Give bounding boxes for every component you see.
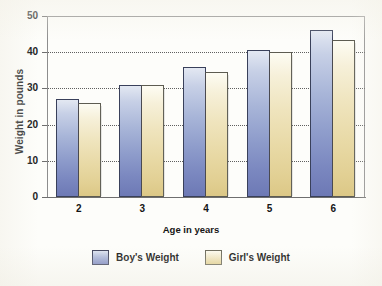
legend-label: Boy's Weight (116, 252, 179, 263)
bar-girl-age-2[interactable] (78, 103, 101, 197)
bar-boy-age-2[interactable] (56, 99, 79, 197)
bar-group-age-4 (183, 67, 229, 197)
x-tick-label-2: 2 (59, 203, 99, 214)
x-axis-title: Age in years (0, 224, 382, 235)
legend-item-boy[interactable]: Boy's Weight (92, 250, 179, 265)
legend-swatch-boy-icon (92, 250, 109, 265)
bar-group-age-6 (310, 30, 356, 197)
chart-legend: Boy's WeightGirl's Weight (0, 250, 382, 265)
bar-group-age-5 (247, 50, 293, 197)
bar-boy-age-3[interactable] (119, 85, 142, 197)
legend-swatch-girl-icon (205, 250, 222, 265)
bars-layer (0, 0, 382, 286)
bar-group-age-3 (119, 85, 165, 197)
bar-boy-age-5[interactable] (247, 50, 270, 197)
x-tick-label-4: 4 (186, 203, 226, 214)
x-tick-label-6: 6 (313, 203, 353, 214)
bar-group-age-2 (56, 99, 102, 197)
x-tick-label-5: 5 (250, 203, 290, 214)
bar-girl-age-5[interactable] (269, 52, 292, 197)
bar-girl-age-4[interactable] (205, 72, 228, 197)
bar-boy-age-6[interactable] (310, 30, 333, 197)
x-tick-label-3: 3 (122, 203, 162, 214)
bar-girl-age-3[interactable] (141, 85, 164, 197)
bar-boy-age-4[interactable] (183, 67, 206, 197)
legend-item-girl[interactable]: Girl's Weight (205, 250, 290, 265)
bar-chart: Weight in pounds 01020304050 23456 Age i… (0, 0, 382, 286)
legend-label: Girl's Weight (229, 252, 290, 263)
bar-girl-age-6[interactable] (332, 40, 355, 197)
